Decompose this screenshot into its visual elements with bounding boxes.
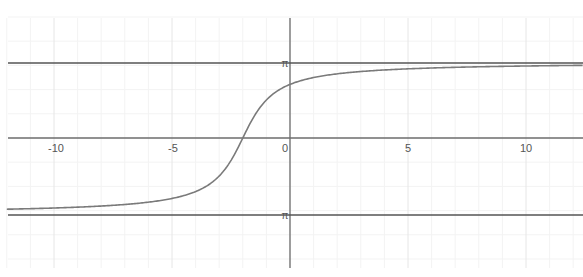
x-tick-label-0: 0 bbox=[282, 142, 288, 154]
x-tick-label-5: 5 bbox=[405, 142, 411, 154]
y-tick-label-neg-pi: π bbox=[282, 210, 289, 221]
x-tick-label-neg10: -10 bbox=[48, 142, 64, 154]
x-tick-label-10: 10 bbox=[520, 142, 532, 154]
arctan-curve bbox=[7, 65, 583, 209]
y-tick-label-pi: π bbox=[282, 58, 289, 69]
minor-grid bbox=[7, 17, 583, 268]
x-tick-label-neg5: -5 bbox=[168, 142, 178, 154]
function-graph: -10 -5 0 5 10 π π bbox=[0, 0, 583, 277]
